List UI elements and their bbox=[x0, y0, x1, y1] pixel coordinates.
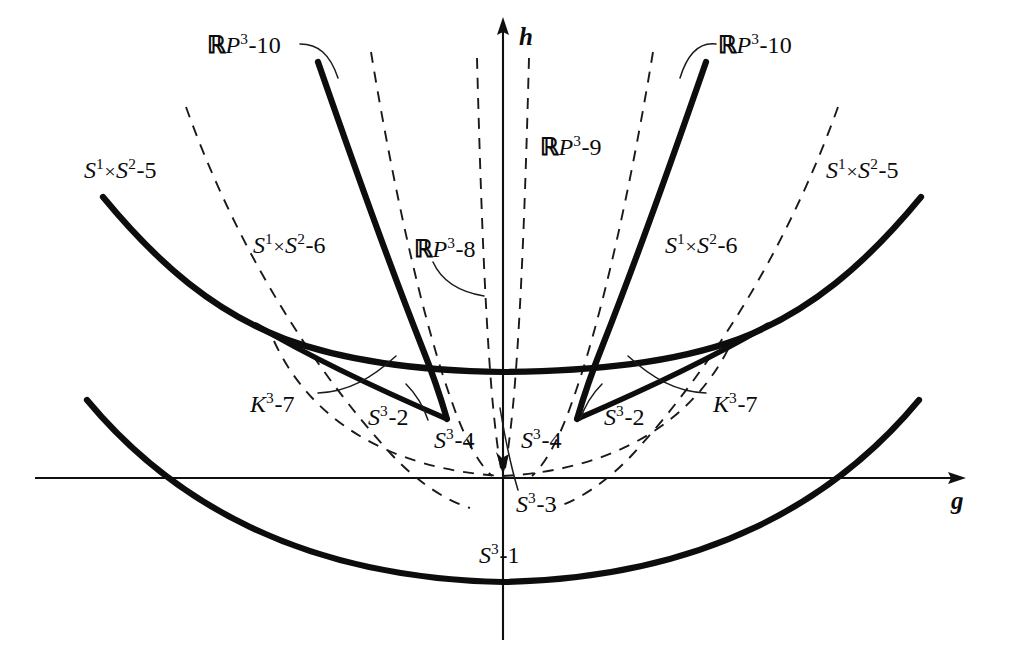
label-s3-4-right-suffix: -4 bbox=[541, 427, 562, 453]
label-rp3-10-right-suffix: -10 bbox=[759, 32, 792, 58]
label-s1s2-5-right-s1: S bbox=[826, 157, 838, 183]
label-s1s2-6-left-sup1: 1 bbox=[265, 230, 273, 247]
label-s1s2-6-left-times: × bbox=[273, 235, 285, 257]
upper-parabola-right-curve bbox=[503, 197, 921, 372]
label-s1s2-5-left-suffix: -5 bbox=[136, 157, 157, 183]
label-rp3-10-left-blackboard: ℝ bbox=[207, 32, 225, 58]
label-s1s2-5-left-s1: S bbox=[84, 157, 96, 183]
label-s3-4-left-suffix: -4 bbox=[454, 427, 475, 453]
label-k3-7-left-sup: 3 bbox=[266, 389, 274, 406]
figure-canvas: ℝP3-10 ℝP3-10 ℝP3-9 ℝP3-8 S1×S2-5 S1×S2-… bbox=[0, 0, 1018, 671]
label-rp3-10-left-p: P bbox=[225, 32, 240, 58]
label-s1s2-6-right: S1×S2-6 bbox=[665, 233, 738, 257]
leader-line-group bbox=[300, 44, 716, 490]
label-rp3-9-blackboard: ℝ bbox=[540, 134, 558, 160]
label-rp3-10-left-sup: 3 bbox=[240, 30, 248, 47]
upper-parabola-left-curve bbox=[103, 197, 503, 372]
label-s1s2-5-right-times: × bbox=[846, 160, 858, 182]
label-rp3-8-sup: 3 bbox=[447, 234, 455, 251]
label-s3-4-right-s: S bbox=[521, 427, 533, 453]
label-k3-7-left-k: K bbox=[250, 391, 266, 417]
label-s1s2-6-right-suffix: -6 bbox=[717, 232, 738, 258]
label-s3-1: S3-1 bbox=[479, 543, 520, 567]
dashed-curve-group bbox=[186, 52, 838, 508]
label-s1s2-6-left-sup2: 2 bbox=[297, 230, 305, 247]
label-s3-3: S3-3 bbox=[516, 492, 557, 516]
diagram-svg bbox=[0, 0, 1018, 671]
label-rp3-10-right-blackboard: ℝ bbox=[718, 32, 736, 58]
label-s3-2-left-s: S bbox=[368, 404, 380, 430]
label-k3-7-right-suffix: -7 bbox=[737, 391, 758, 417]
label-s1s2-5-left: S1×S2-5 bbox=[84, 158, 157, 182]
label-s3-2-right-suffix: -2 bbox=[624, 404, 645, 430]
label-s3-3-sup: 3 bbox=[528, 489, 536, 506]
label-s1s2-5-right: S1×S2-5 bbox=[826, 158, 899, 182]
label-s3-2-left: S3-2 bbox=[368, 405, 409, 429]
label-s1s2-6-right-sup1: 1 bbox=[677, 230, 685, 247]
label-s1s2-6-right-times: × bbox=[685, 235, 697, 257]
outer-dashed-left-curve bbox=[186, 107, 470, 508]
label-rp3-10-right: ℝP3-10 bbox=[718, 33, 792, 57]
label-rp3-10-right-p: P bbox=[736, 32, 751, 58]
label-rp3-9: ℝP3-9 bbox=[540, 135, 602, 159]
label-s1s2-5-right-s2: S bbox=[858, 157, 870, 183]
label-k3-7-left: K3-7 bbox=[250, 392, 295, 416]
label-s1s2-6-left-s2: S bbox=[285, 232, 297, 258]
label-s3-4-right: S3-4 bbox=[521, 428, 562, 452]
label-s3-1-s: S bbox=[479, 542, 491, 568]
label-s1s2-5-right-sup1: 1 bbox=[838, 155, 846, 172]
label-rp3-8-p: P bbox=[432, 236, 447, 262]
label-rp3-10-left: ℝP3-10 bbox=[207, 33, 281, 57]
label-s1s2-5-left-sup1: 1 bbox=[96, 155, 104, 172]
label-s3-4-left-s: S bbox=[434, 427, 446, 453]
label-s3-2-right-s: S bbox=[604, 404, 616, 430]
label-s1s2-6-left: S1×S2-6 bbox=[253, 233, 326, 257]
label-s3-3-s: S bbox=[516, 491, 528, 517]
label-rp3-9-suffix: -9 bbox=[581, 134, 602, 160]
g-axis-label: g bbox=[951, 488, 964, 513]
label-s3-2-right: S3-2 bbox=[604, 405, 645, 429]
label-s3-2-left-suffix: -2 bbox=[388, 404, 409, 430]
label-k3-7-right-sup: 3 bbox=[729, 389, 737, 406]
label-s3-4-right-sup: 3 bbox=[533, 425, 541, 442]
label-k3-7-right-k: K bbox=[713, 391, 729, 417]
label-s1s2-6-left-suffix: -6 bbox=[305, 232, 326, 258]
label-s1s2-5-left-s2: S bbox=[116, 157, 128, 183]
label-rp3-8-blackboard: ℝ bbox=[414, 236, 432, 262]
label-k3-7-right: K3-7 bbox=[713, 392, 758, 416]
label-rp3-10-left-suffix: -10 bbox=[248, 32, 281, 58]
label-rp3-8-suffix: -8 bbox=[455, 236, 476, 262]
label-s1s2-6-right-sup2: 2 bbox=[709, 230, 717, 247]
label-s3-3-suffix: -3 bbox=[536, 491, 557, 517]
label-k3-7-left-suffix: -7 bbox=[274, 391, 295, 417]
outer-dashed-right-curve bbox=[554, 107, 838, 508]
label-rp3-8: ℝP3-8 bbox=[414, 237, 476, 261]
label-s1s2-5-left-times: × bbox=[104, 160, 116, 182]
label-s1s2-5-right-suffix: -5 bbox=[878, 157, 899, 183]
label-s3-2-right-sup: 3 bbox=[616, 402, 624, 419]
rp3-10-right-leader bbox=[680, 44, 716, 78]
label-rp3-9-p: P bbox=[558, 134, 573, 160]
h-axis-label: h bbox=[519, 24, 533, 49]
label-s3-4-left-sup: 3 bbox=[446, 425, 454, 442]
label-s1s2-6-left-s1: S bbox=[253, 232, 265, 258]
narrow-dashed-left-curve bbox=[477, 58, 503, 477]
label-s1s2-5-left-sup2: 2 bbox=[128, 155, 136, 172]
label-s3-1-sup: 3 bbox=[491, 540, 499, 557]
rp3-8-leader bbox=[433, 262, 484, 296]
label-s1s2-6-right-s1: S bbox=[665, 232, 677, 258]
label-s1s2-5-right-sup2: 2 bbox=[870, 155, 878, 172]
narrow-dashed-right-curve bbox=[503, 58, 529, 477]
label-rp3-10-right-sup: 3 bbox=[751, 30, 759, 47]
label-s1s2-6-right-s2: S bbox=[697, 232, 709, 258]
label-s3-4-left: S3-4 bbox=[434, 428, 475, 452]
label-rp3-9-sup: 3 bbox=[573, 132, 581, 149]
label-s3-1-suffix: -1 bbox=[499, 542, 520, 568]
label-s3-2-left-sup: 3 bbox=[380, 402, 388, 419]
